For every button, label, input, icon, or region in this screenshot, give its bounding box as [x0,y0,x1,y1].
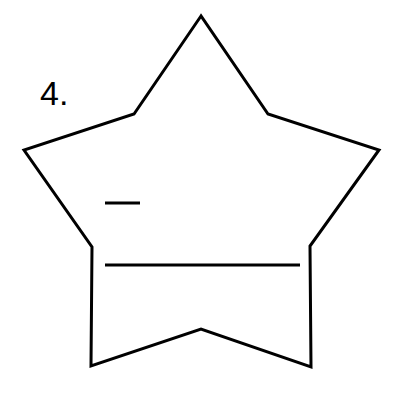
star-outline-shape [24,16,379,367]
star-worksheet-figure [0,0,405,394]
